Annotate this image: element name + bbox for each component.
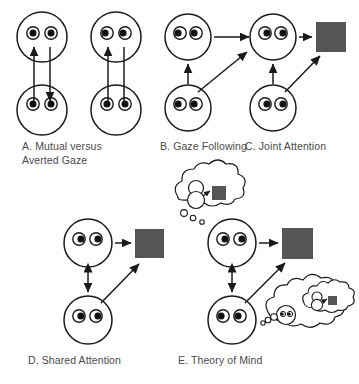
eye-right-icon bbox=[234, 233, 246, 245]
face-a-averted-bottom bbox=[91, 85, 141, 135]
face-a-mutual-top bbox=[17, 12, 67, 62]
face-b-top bbox=[165, 14, 211, 60]
eye-left-icon bbox=[73, 310, 85, 322]
face-c-top bbox=[250, 14, 296, 60]
eye-left-icon bbox=[259, 27, 271, 39]
eye-left-icon bbox=[73, 233, 85, 245]
thought-bubble-e-top bbox=[175, 160, 245, 224]
arrow-d-bottom-to-object bbox=[101, 264, 139, 303]
arrow-c-bottom-to-object bbox=[285, 56, 320, 92]
mini-object-square bbox=[212, 186, 226, 200]
eye-left-icon bbox=[27, 98, 39, 110]
nested-mini-face-lower bbox=[311, 299, 322, 310]
panel-b-caption: B. Gaze Following bbox=[160, 140, 247, 154]
eye-right-icon bbox=[275, 27, 287, 39]
bubble-tail-dot-2 bbox=[265, 317, 271, 323]
eye-left-icon bbox=[101, 27, 113, 39]
panel-e-group bbox=[175, 160, 354, 344]
bubble-tail-dot-1 bbox=[261, 321, 265, 325]
mini-face-lower bbox=[188, 192, 205, 209]
eye-right-icon bbox=[90, 310, 102, 322]
thought-bubble-e-bottom bbox=[261, 274, 355, 327]
eye-right-icon bbox=[190, 27, 202, 39]
eye-left-icon bbox=[174, 27, 186, 39]
eye-left-icon bbox=[101, 98, 113, 110]
panel-a-caption: A. Mutual versus Averted Gaze bbox=[22, 140, 102, 167]
bubble-tail-dot-3 bbox=[200, 220, 205, 225]
panel-b-group bbox=[165, 14, 249, 131]
bubble-mini-face bbox=[277, 306, 296, 325]
object-e-target-square bbox=[282, 228, 313, 259]
bubble-tail-dot-1 bbox=[181, 210, 188, 217]
social-attention-diagram: A. Mutual versus Averted Gaze B. Gaze Fo… bbox=[0, 0, 359, 384]
eye-left-icon bbox=[217, 310, 229, 322]
eye-right-icon bbox=[90, 233, 102, 245]
eye-left-icon bbox=[217, 233, 229, 245]
panel-d-caption: D. Shared Attention bbox=[28, 354, 121, 368]
eye-left-icon bbox=[27, 27, 39, 39]
eye-right-icon bbox=[190, 98, 202, 110]
face-e-top bbox=[208, 219, 256, 267]
eye-left-icon bbox=[174, 98, 186, 110]
object-c-target-square bbox=[316, 22, 346, 52]
eye-left-icon bbox=[259, 98, 271, 110]
face-c-bottom bbox=[250, 85, 296, 131]
arrow-b-bottom-diagonal bbox=[198, 52, 247, 92]
face-a-mutual-bottom bbox=[17, 85, 67, 135]
face-d-top bbox=[64, 219, 112, 267]
panel-a-group bbox=[17, 12, 141, 135]
eye-right-icon bbox=[275, 98, 287, 110]
eye-right-icon bbox=[119, 98, 131, 110]
eye-right-icon bbox=[119, 27, 131, 39]
diagram-canvas bbox=[0, 0, 359, 384]
nested-mini-object-square bbox=[328, 296, 337, 305]
face-a-averted-top bbox=[91, 12, 141, 62]
eye-right-icon bbox=[234, 310, 246, 322]
face-d-bottom bbox=[64, 296, 112, 344]
face-e-bottom bbox=[208, 296, 256, 344]
bubble-tail-dot-2 bbox=[190, 215, 196, 221]
panel-e-caption: E. Theory of Mind bbox=[178, 354, 262, 368]
panel-c-group bbox=[250, 14, 346, 131]
eye-right-icon bbox=[45, 27, 57, 39]
object-d-target-square bbox=[135, 229, 164, 258]
panel-c-caption: C. Joint Attention bbox=[245, 140, 326, 154]
eye-right-icon bbox=[45, 98, 57, 110]
bubble-tail-dot-3 bbox=[271, 314, 278, 321]
face-b-bottom bbox=[165, 85, 211, 131]
panel-d-group bbox=[64, 219, 164, 344]
